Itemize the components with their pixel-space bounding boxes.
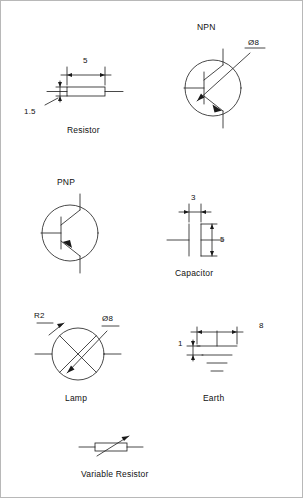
resistor-length-dim: 5 <box>83 56 88 65</box>
earth-caption: Earth <box>203 393 224 403</box>
lamp-symbol <box>35 323 121 380</box>
earth-symbol <box>187 327 243 371</box>
npn-diameter-dim: Ø8 <box>248 38 259 47</box>
pnp-caption: PNP <box>57 177 75 187</box>
npn-caption: NPN <box>197 22 216 32</box>
resistor-caption: Resistor <box>67 125 100 135</box>
earth-spacing-dim: 1 <box>178 339 183 348</box>
resistor-height-dim: 1.5 <box>24 107 36 116</box>
symbols-drawing <box>1 1 303 498</box>
capacitor-gap-dim: 3 <box>191 193 196 202</box>
capacitor-symbol <box>167 204 223 256</box>
variable-resistor-symbol <box>79 436 143 456</box>
pnp-symbol <box>41 194 98 273</box>
resistor-symbol <box>45 67 123 105</box>
lamp-diameter-dim: Ø8 <box>102 314 113 323</box>
lamp-caption: Lamp <box>65 393 87 403</box>
variable-resistor-caption: Variable Resistor <box>81 469 149 479</box>
capacitor-plate-dim: 5 <box>220 235 225 244</box>
npn-symbol <box>184 48 265 128</box>
lamp-radius-dim: R2 <box>34 311 45 320</box>
drawing-sheet: 5 1.5 Resistor NPN Ø8 PNP 3 5 Capacitor … <box>0 0 303 498</box>
capacitor-caption: Capacitor <box>175 268 213 278</box>
earth-width-dim: 8 <box>259 321 264 330</box>
